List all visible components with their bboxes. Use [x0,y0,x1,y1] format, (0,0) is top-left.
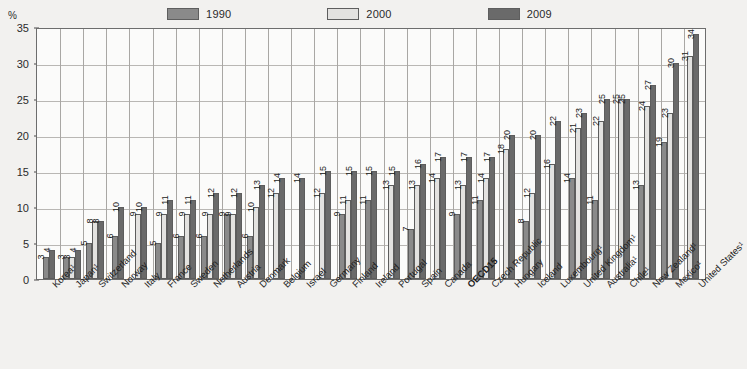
y-tick-label: 25 [0,94,29,106]
bar-value-label: 12 [267,188,276,198]
bar-group: 132427 [636,29,659,279]
bar-value-label: 15 [388,166,397,176]
bar-group: 6911 [175,29,198,279]
bar-value-label: 6 [106,233,115,238]
bar-group: 588 [83,29,106,279]
bar-value-label: 8 [92,219,101,224]
bar-value-label: 9 [129,212,138,217]
legend-swatch-1990 [167,8,199,20]
legend-item-2000: 2000 [327,8,391,20]
bar-value-label: 9 [448,212,457,217]
bar-value-label: 12 [523,188,532,198]
bar-value-label: 7 [402,226,411,231]
bar-group: 6912 [198,29,221,279]
y-axis-unit: % [8,10,17,21]
bar-value-label: 11 [586,195,595,204]
bar-value-label: 16 [543,159,552,169]
bar-value-label: 3 [63,255,72,260]
bar-value-label: 15 [345,166,354,176]
bar-value-label: 6 [241,233,250,238]
bar-value-label: 27 [644,80,653,90]
chart-legend: 1990 2000 2009 [0,4,719,24]
bar-value-label: 8 [517,219,526,224]
bar-value-label: 23 [661,108,670,118]
legend-item-2009: 2009 [488,8,552,20]
bar-group: 91317 [452,29,475,279]
bar-value-label: 13 [454,180,463,190]
bar-value-label: 9 [333,212,342,217]
bar-value-label: 12 [230,188,239,198]
bar-value-label: 13 [382,180,391,190]
bar-group: 91115 [336,29,359,279]
bar-value-label: 25 [598,94,607,104]
y-tick-label: 35 [0,22,29,34]
plot-wrapper: 3433458861091059116911691299126101312141… [36,28,706,280]
legend-swatch-2000 [327,8,359,20]
y-tick-label: 20 [0,130,29,142]
bar-value-label: 11 [471,195,480,204]
bar-value-label: 11 [161,195,170,204]
bar-value-label: 16 [414,159,423,169]
legend-swatch-2009 [488,8,520,20]
y-tick-label: 5 [0,238,29,250]
bar-group: 71316 [406,29,429,279]
bar-value-label: 5 [80,240,89,245]
bar-value-label: 11 [339,195,348,204]
bar-value-label: 11 [184,195,193,204]
bar-value-label: 25 [618,94,627,104]
bar-value-label: 10 [135,202,144,212]
bar-value-label: 34 [687,29,696,39]
bar-group: 112225 [590,29,613,279]
bar-value-label: 17 [460,152,469,162]
bar-group: 192330 [659,29,682,279]
bar-value-label: 23 [575,108,584,118]
bar: 22 [555,121,561,279]
bar-value-label: 15 [319,166,328,176]
bar: 30 [673,63,679,279]
y-tick-label: 10 [0,202,29,214]
bar-group: 111417 [475,29,498,279]
bar-value-label: 13 [632,180,641,190]
bar-value-label: 4 [43,248,52,253]
bar-value-label: 9 [224,212,233,217]
y-tick-label: 0 [0,274,29,286]
bar: 4 [49,250,55,279]
legend-label-2009: 2009 [527,8,552,20]
bar-value-label: 17 [434,152,443,162]
bar-group: 1215 [313,29,336,279]
y-tick-label: 30 [0,58,29,70]
legend-label-2000: 2000 [366,8,391,20]
bar-value-label: 14 [273,173,282,183]
plot-area: 3433458861091059116911691299126101312141… [36,28,706,280]
bar-value-label: 9 [178,212,187,217]
bar-group: 5911 [152,29,175,279]
bar: 17 [440,157,446,279]
bar: 27 [650,85,656,279]
bar-group: 142123 [567,29,590,279]
bar-value-label: 17 [483,152,492,162]
bar-value-label: 20 [503,130,512,140]
bar-group: 1315 [382,29,405,279]
bar-value-label: 10 [112,202,121,212]
bar-value-label: 4 [69,248,78,253]
bar-value-label: 22 [549,116,558,126]
bar: 15 [325,171,331,279]
bar-group: 9912 [221,29,244,279]
legend-label-1990: 1990 [206,8,231,20]
bar-group: 1622 [544,29,567,279]
bar-value-label: 5 [149,240,158,245]
bar-value-label: 6 [172,233,181,238]
y-axis: 05101520253035 [0,28,34,280]
x-axis-labels: Korea¹Japan¹SwitzerlandNorwayItalyFrance… [36,282,706,368]
bar-value-label: 15 [365,166,374,176]
bar-value-label: 19 [655,137,664,147]
bar-value-label: 21 [569,123,578,133]
bar-value-label: 31 [681,51,690,61]
bar-group: 1115 [359,29,382,279]
bar-value-label: 9 [201,212,210,217]
bar-value-label: 30 [667,58,676,68]
bar-value-label: 3 [37,255,46,260]
bar-value-label: 14 [563,173,572,183]
bar-value-label: 14 [293,173,302,183]
